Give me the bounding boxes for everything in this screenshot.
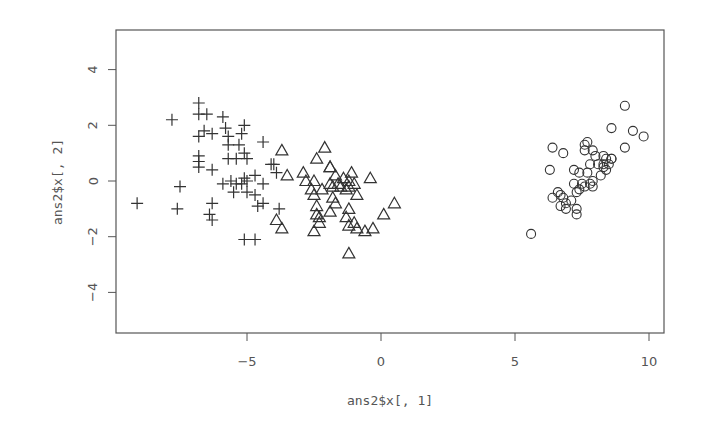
scatter-plot: −50510 −4−2024 ans2$x[, 1] ans2$x[, 2]	[0, 0, 701, 423]
circle-marker	[545, 165, 554, 174]
x-axis-label: ans2$x[, 1]	[347, 393, 433, 408]
plus-marker	[193, 97, 205, 109]
y-tick-label: 0	[86, 177, 101, 185]
y-tick-label: −2	[86, 227, 101, 246]
triangle-marker	[311, 153, 323, 164]
plus-marker	[230, 153, 242, 165]
circle-marker	[602, 154, 611, 163]
plus-marker	[203, 208, 215, 220]
plus-marker	[236, 128, 248, 140]
circle-marker	[607, 154, 616, 163]
triangle-marker	[378, 208, 390, 219]
circle-marker	[620, 101, 629, 110]
x-tick-label: 5	[511, 354, 519, 369]
triangle-marker	[319, 142, 331, 153]
plus-marker	[270, 167, 282, 179]
y-axis-label: ans2$x[, 2]	[50, 139, 65, 225]
circle-marker	[639, 132, 648, 141]
circle-marker	[604, 160, 613, 169]
plus-marker	[174, 181, 186, 193]
circle-marker	[620, 143, 629, 152]
circle-marker	[572, 188, 581, 197]
triangle-marker	[324, 161, 336, 172]
x-tick-label: 0	[377, 354, 385, 369]
triangle-marker	[343, 203, 355, 214]
series-group-plus	[131, 97, 285, 245]
triangle-marker	[346, 167, 358, 178]
plus-marker	[220, 122, 232, 134]
triangle-marker	[343, 247, 355, 258]
data-points	[131, 97, 648, 258]
plus-marker	[193, 130, 205, 142]
plus-marker	[249, 189, 261, 201]
triangle-marker	[297, 167, 309, 178]
circle-marker	[559, 149, 568, 158]
series-group-circle	[527, 101, 649, 238]
triangle-marker	[388, 197, 400, 208]
plus-marker	[236, 178, 248, 190]
circle-marker	[575, 185, 584, 194]
plus-marker	[206, 128, 218, 140]
triangle-marker	[276, 144, 288, 155]
plus-marker	[166, 114, 178, 126]
triangle-marker	[308, 175, 320, 186]
plus-marker	[206, 214, 218, 226]
plus-marker	[201, 108, 213, 120]
triangle-marker	[364, 172, 376, 183]
plus-marker	[238, 172, 250, 184]
plus-marker	[241, 175, 253, 187]
plot-box	[116, 30, 664, 333]
y-tick-label: 4	[86, 65, 101, 73]
plus-marker	[238, 233, 250, 245]
circle-marker	[588, 177, 597, 186]
triangle-marker	[281, 169, 293, 180]
circle-marker	[569, 165, 578, 174]
plus-marker	[238, 147, 250, 159]
series-group-triangle	[270, 142, 400, 258]
circle-marker	[548, 143, 557, 152]
triangle-marker	[359, 225, 371, 236]
circle-marker	[561, 204, 570, 213]
triangle-marker	[324, 161, 336, 172]
circle-marker	[572, 210, 581, 219]
circle-marker	[596, 171, 605, 180]
circle-marker	[567, 196, 576, 205]
plus-marker	[257, 197, 269, 209]
x-axis: −50510	[237, 333, 657, 369]
plus-marker	[222, 139, 234, 151]
plus-marker	[249, 169, 261, 181]
plus-marker	[238, 119, 250, 131]
plus-marker	[225, 175, 237, 187]
circle-marker	[556, 202, 565, 211]
circle-marker	[602, 165, 611, 174]
plus-marker	[193, 161, 205, 173]
circle-marker	[556, 190, 565, 199]
plus-marker	[217, 111, 229, 123]
plus-marker	[257, 136, 269, 148]
plus-marker	[217, 178, 229, 190]
plus-marker	[257, 178, 269, 190]
circle-marker	[628, 126, 637, 135]
plus-marker	[249, 233, 261, 245]
plus-marker	[198, 125, 210, 137]
plus-marker	[268, 158, 280, 170]
y-axis: −4−2024	[86, 65, 117, 302]
plus-marker	[228, 186, 240, 198]
plus-marker	[171, 203, 183, 215]
circle-marker	[553, 188, 562, 197]
plus-marker	[206, 197, 218, 209]
plus-marker	[131, 197, 143, 209]
y-tick-label: −4	[86, 283, 101, 302]
x-tick-label: −5	[237, 354, 256, 369]
triangle-marker	[270, 214, 282, 225]
x-tick-label: 10	[641, 354, 658, 369]
plus-marker	[233, 139, 245, 151]
plus-marker	[252, 200, 264, 212]
circle-marker	[583, 138, 592, 147]
plus-marker	[273, 203, 285, 215]
circle-marker	[527, 229, 536, 238]
y-tick-label: 2	[86, 121, 101, 129]
plus-marker	[206, 164, 218, 176]
plus-marker	[241, 186, 253, 198]
circle-marker	[607, 124, 616, 133]
